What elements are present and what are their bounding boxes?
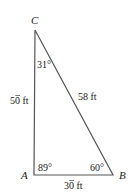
triangle-outline <box>34 30 113 175</box>
angle-label-b: 60° <box>90 162 104 173</box>
angle-label-c: 31° <box>37 59 51 70</box>
side-label-bc: 58 ft <box>78 91 97 102</box>
vertex-label-a: A <box>20 169 28 181</box>
vertex-label-b: B <box>119 169 126 181</box>
angle-label-a: 89° <box>38 162 52 173</box>
side-ab-unit: ft <box>74 180 83 191</box>
triangle-diagram: C A B 31° 89° 60° 50 ft 58 ft 30 ft <box>0 0 133 195</box>
side-label-ac: 50 ft <box>10 95 29 106</box>
svg-text:50 ft: 50 ft <box>10 95 29 106</box>
side-ac-unit: ft <box>20 95 29 106</box>
svg-text:30 ft: 30 ft <box>64 180 83 191</box>
side-label-ab: 30 ft <box>64 180 83 191</box>
vertex-label-c: C <box>31 14 39 26</box>
